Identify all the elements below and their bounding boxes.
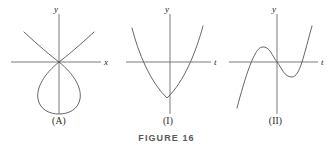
- t-axis-label: t: [214, 57, 217, 67]
- panel-i: y t (I): [118, 0, 218, 130]
- panel-a-graph: y x: [0, 0, 118, 130]
- panel-ii-label: (II): [218, 116, 333, 126]
- panel-i-label: (I): [118, 116, 218, 126]
- panel-i-graph: y t: [118, 0, 218, 130]
- y-axis-label: y: [164, 4, 169, 14]
- y-axis-label: y: [271, 4, 276, 14]
- figure-caption: FIGURE 16: [0, 133, 333, 143]
- right-branch: [59, 32, 94, 62]
- left-branch: [24, 32, 59, 62]
- panel-a: y x (A): [0, 0, 118, 130]
- panel-ii: y t (II): [218, 0, 333, 130]
- panel-a-label: (A): [0, 116, 118, 126]
- t-axis-label: t: [321, 57, 324, 67]
- cubic-curve: [237, 26, 312, 108]
- figure-16: y x (A) y t (I) y t (II) FIGURE 16: [0, 0, 333, 154]
- x-axis-label: x: [103, 57, 108, 67]
- y-axis-label: y: [53, 4, 58, 14]
- panel-ii-graph: y t: [218, 0, 333, 130]
